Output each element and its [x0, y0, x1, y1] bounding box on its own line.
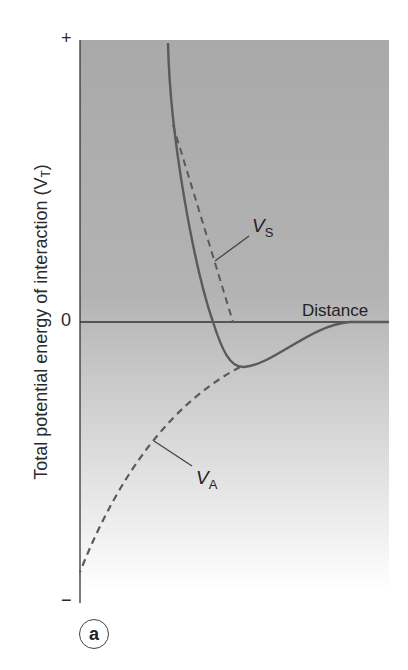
y-axis-label: Total potential energy of interaction (V… [31, 164, 53, 480]
y-tick-plus: + [61, 28, 72, 49]
y-tick-zero: 0 [61, 310, 71, 331]
x-axis-label: Distance [302, 301, 368, 320]
chart-figure: VS VA Distance Total potential energy of… [0, 0, 408, 670]
plot-svg: VS VA Distance [0, 0, 408, 670]
panel-label: a [79, 619, 109, 649]
y-tick-minus: − [61, 590, 72, 611]
